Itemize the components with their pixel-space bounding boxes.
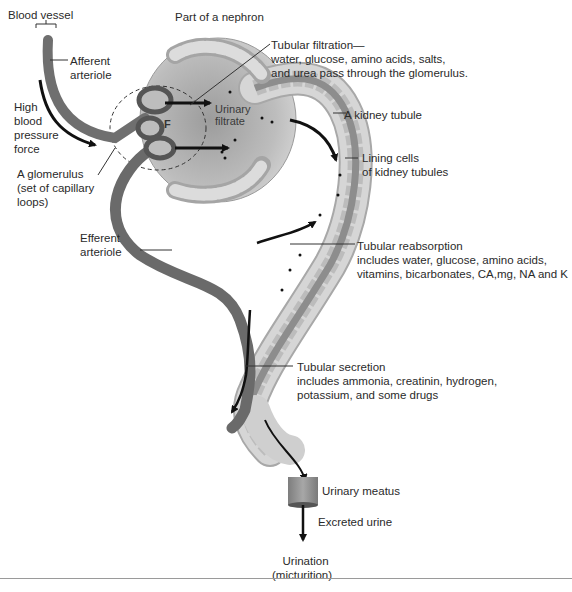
label-line: blood bbox=[14, 114, 59, 128]
label-line: A glomerulus bbox=[17, 167, 94, 181]
label-line: Lining cells bbox=[362, 151, 448, 165]
label-line: includes water, glucose, amino acids, bbox=[357, 253, 568, 267]
label-line: Urination bbox=[272, 554, 332, 568]
tubule-flow-arrow bbox=[290, 120, 336, 160]
label-line: arteriole bbox=[80, 245, 122, 259]
label-line: loops) bbox=[17, 195, 94, 209]
label-line: Efferent bbox=[80, 231, 122, 245]
label-blood-vessel: Blood vessel bbox=[8, 8, 73, 22]
label-line: vitamins, bicarbonates, CA,mg, NA and K bbox=[357, 267, 568, 281]
label-line: water, glucose, amino acids, salts, bbox=[271, 52, 468, 66]
bottom-divider bbox=[0, 578, 572, 579]
label-line: arteriole bbox=[70, 68, 112, 82]
label-excreted-urine: Excreted urine bbox=[318, 515, 392, 529]
label-line: High bbox=[14, 100, 59, 114]
label-lining-cells: Lining cells of kidney tubules bbox=[362, 151, 448, 179]
label-high-blood-pressure: High blood pressure force bbox=[14, 100, 59, 156]
label-urinary-filtrate: Urinary filtrate bbox=[215, 103, 250, 127]
label-line: Tubular filtration— bbox=[271, 38, 468, 52]
label-line: Afferent bbox=[70, 54, 112, 68]
label-afferent-arteriole: Afferent arteriole bbox=[70, 54, 112, 82]
label-line: includes ammonia, creatinin, hydrogen, bbox=[297, 374, 497, 388]
label-line: pressure bbox=[14, 128, 59, 142]
label-tubular-filtration: Tubular filtration— water, glucose, amin… bbox=[271, 38, 468, 80]
label-line: and urea pass through the glomerulus. bbox=[271, 66, 468, 80]
nephron-diagram bbox=[0, 0, 572, 592]
label-line: Urinary bbox=[215, 103, 250, 115]
label-tubular-reabsorption: Tubular reabsorption includes water, glu… bbox=[357, 239, 568, 281]
label-line: Tubular reabsorption bbox=[357, 239, 568, 253]
label-line: (micturition) bbox=[272, 568, 332, 582]
label-efferent-arteriole: Efferent arteriole bbox=[80, 231, 122, 259]
label-line: filtrate bbox=[215, 115, 250, 127]
label-line: Tubular secretion bbox=[297, 360, 497, 374]
label-line: of kidney tubules bbox=[362, 165, 448, 179]
label-glomerulus: A glomerulus (set of capillary loops) bbox=[17, 167, 94, 209]
label-line: (set of capillary bbox=[17, 181, 94, 195]
urinary-meatus bbox=[288, 477, 318, 508]
label-part-of-nephron: Part of a nephron bbox=[175, 10, 264, 24]
label-filtration-marker: F bbox=[164, 118, 171, 130]
label-line: potassium, and some drugs bbox=[297, 388, 497, 402]
label-kidney-tubule: A kidney tubule bbox=[344, 108, 422, 122]
label-urinary-meatus: Urinary meatus bbox=[322, 484, 400, 498]
label-line: force bbox=[14, 142, 59, 156]
label-tubular-secretion: Tubular secretion includes ammonia, crea… bbox=[297, 360, 497, 402]
reabsorption-arrow bbox=[257, 222, 315, 243]
